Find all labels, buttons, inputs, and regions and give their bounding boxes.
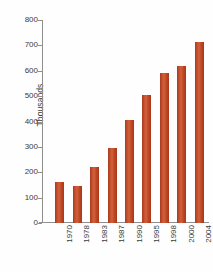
y-axis-tick-label: 0	[14, 219, 38, 227]
bar	[142, 95, 151, 223]
x-axis-tick-label: 2004	[203, 225, 213, 259]
x-axis-tick-label: 1995	[151, 225, 162, 259]
y-axis-tick-mark	[38, 223, 42, 224]
bar	[55, 182, 64, 223]
y-axis-tick-label-group: 8007006005004003002001000	[14, 20, 38, 223]
x-axis-tick-label: 1990	[134, 225, 145, 259]
y-axis-tick-label: 400	[14, 118, 38, 126]
bar	[160, 73, 169, 223]
bar-chart: Thousands 8007006005004003002001000 1970…	[0, 0, 213, 272]
bar-series	[42, 20, 209, 223]
x-axis-tick-label: 1978	[81, 225, 92, 259]
bar	[108, 148, 117, 223]
x-axis-tick-label: 1998	[168, 225, 179, 259]
bar	[90, 167, 99, 223]
bar	[73, 186, 82, 223]
bar	[125, 120, 134, 223]
plot-area	[42, 20, 209, 223]
y-axis-tick-label: 300	[14, 143, 38, 151]
bar	[195, 42, 204, 223]
y-axis-tick-label: 600	[14, 67, 38, 75]
x-axis-tick-label: 1970	[64, 225, 75, 259]
y-axis-tick-label: 500	[14, 92, 38, 100]
y-axis-tick-label: 200	[14, 168, 38, 176]
x-axis-tick-label: 1983	[99, 225, 110, 259]
bar	[177, 66, 186, 223]
x-axis-tick-label: 2000	[186, 225, 197, 259]
y-axis-tick-label: 700	[14, 41, 38, 49]
y-axis-tick-label: 800	[14, 16, 38, 24]
x-axis-tick-label-group: 197019781983198719901995199820002004	[42, 225, 209, 271]
y-axis-tick-label: 100	[14, 194, 38, 202]
x-axis-tick-label: 1987	[116, 225, 127, 259]
